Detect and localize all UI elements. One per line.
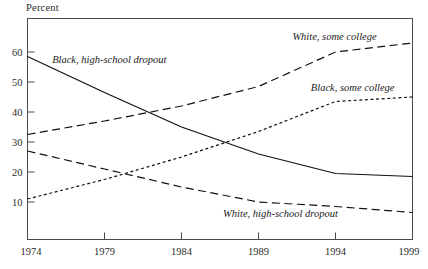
y-axis-tick-label: 60	[12, 47, 23, 58]
y-axis-tick-label: 30	[12, 137, 23, 148]
plot-frame	[28, 19, 413, 240]
series-annotation-1: White, some college	[292, 31, 377, 42]
y-axis-tick-label: 20	[12, 167, 23, 178]
series-annotation-3: White, high-school dropout	[223, 208, 339, 219]
series-line-0	[28, 57, 413, 177]
series-line-2	[28, 97, 413, 199]
x-axis-tick-label: 1979	[94, 246, 115, 257]
x-axis-tick-label: 1989	[248, 246, 269, 257]
x-axis-tick-label: 1999	[399, 246, 420, 257]
x-axis-tick-label: 1994	[325, 246, 347, 257]
series-line-3	[28, 151, 413, 213]
line-chart-plot: 605040302010197419791984198919941999Blac…	[0, 0, 428, 269]
y-axis-tick-label: 40	[12, 107, 23, 118]
series-annotation-0: Black, high-school dropout	[52, 54, 167, 65]
x-axis-tick-label: 1974	[21, 246, 43, 257]
y-axis-tick-label: 50	[12, 77, 23, 88]
chart-container: Percent 60504030201019741979198419891994…	[0, 0, 428, 269]
series-annotation-2: Black, some college	[311, 82, 395, 93]
y-axis-tick-label: 10	[12, 197, 23, 208]
x-axis-tick-label: 1984	[171, 246, 193, 257]
